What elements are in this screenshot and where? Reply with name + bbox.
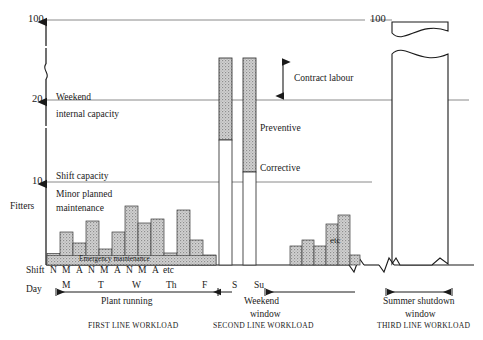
y-tick-10: 10 <box>32 176 43 187</box>
window-label-summer-line1: Summer shutdown <box>383 297 455 307</box>
y-axis-label: Fitters <box>10 202 34 212</box>
y-tick-100-right: 100 <box>370 14 386 25</box>
window-label-plant-running: Plant running <box>101 297 152 307</box>
y-axis <box>45 22 48 265</box>
label-weekend-internal-capacity-line2: internal capacity <box>56 110 119 120</box>
second-line-small-bar-group <box>290 215 360 265</box>
window-label-weekend-line2: window <box>250 310 281 320</box>
day-tick-M: M <box>62 281 70 291</box>
shift-tick-8: M <box>138 266 146 276</box>
day-tick-T: T <box>98 281 104 291</box>
row-label-shift: Shift <box>26 266 44 276</box>
caption-third-line-workload: THIRD LINE WORKLOAD <box>377 322 470 330</box>
day-tick-S: S <box>232 281 237 291</box>
label-weekend-internal-capacity-line1: Weekend <box>56 93 91 103</box>
y-tick-20: 20 <box>32 94 43 105</box>
shift-tick-1: N <box>50 266 57 276</box>
shift-tick-etc: etc <box>163 266 174 276</box>
bar-second-3 <box>314 246 326 265</box>
day-tick-W: W <box>132 281 141 291</box>
second-line-tall-bar-group <box>219 58 256 265</box>
caption-first-line-workload: FIRST LINE WORKLOAD <box>88 322 179 330</box>
label-preventive: Preventive <box>260 124 301 134</box>
bar-sun-lower-corrective <box>243 172 256 265</box>
window-label-summer-line2: window <box>405 310 436 320</box>
shift-tick-2: M <box>62 266 70 276</box>
row-label-day: Day <box>26 285 42 295</box>
day-tick-F: F <box>202 281 207 291</box>
y-axis-break-symbol <box>45 64 48 79</box>
day-tick-Su: Su <box>254 281 264 291</box>
bar-sat-lower-corrective <box>219 140 232 265</box>
window-label-weekend-line1: Weekend <box>244 297 279 307</box>
label-emergency-maintenance: Emergency maintenance <box>79 256 150 263</box>
bar-second-1 <box>290 246 302 265</box>
label-contract-labour: Contract labour <box>294 74 353 84</box>
shift-tick-9: A <box>152 266 159 276</box>
label-minor-planned-line1: Minor planned <box>56 190 112 200</box>
label-minor-planned-line2: maintenance <box>56 204 104 214</box>
third-line-bar-body <box>392 50 448 265</box>
label-corrective: Corrective <box>260 164 300 174</box>
shift-tick-3: A <box>76 266 83 276</box>
bar-second-2 <box>302 240 314 265</box>
bar-sat-upper-preventive <box>219 58 232 140</box>
shift-tick-4: N <box>88 266 95 276</box>
maintenance-workload-chart: 100 20 10 Fitters 100 Weekend internal c… <box>0 0 483 340</box>
chart-vector-layer <box>0 0 483 340</box>
label-etc: etc <box>330 236 341 245</box>
shift-tick-6: A <box>114 266 121 276</box>
day-tick-Th: Th <box>166 281 177 291</box>
label-shift-capacity: Shift capacity <box>56 172 109 182</box>
third-line-bar-group <box>392 22 448 265</box>
bar-sun-upper-preventive <box>243 58 256 172</box>
shift-tick-7: N <box>126 266 133 276</box>
third-line-bar-top-stub <box>392 22 448 37</box>
bar-second-6 <box>350 255 360 265</box>
y-tick-100: 100 <box>28 14 44 25</box>
shift-tick-5: M <box>100 266 108 276</box>
caption-second-line-workload: SECOND LINE WORKLOAD <box>213 322 314 330</box>
